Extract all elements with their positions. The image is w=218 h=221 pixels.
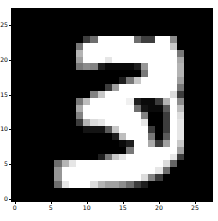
y-tick-mark bbox=[9, 25, 11, 26]
x-tick-label: 20 bbox=[155, 205, 163, 211]
image-axes bbox=[11, 8, 213, 202]
x-tick-label: 0 bbox=[13, 205, 17, 211]
y-tick-label: 0 bbox=[4, 195, 8, 201]
x-tick-label: 25 bbox=[191, 205, 199, 211]
matplotlib-figure: 0510152025 0510152025 bbox=[0, 0, 218, 221]
x-tick-label: 10 bbox=[83, 205, 91, 211]
y-tick-mark bbox=[9, 199, 11, 200]
mnist-digit-image bbox=[11, 8, 213, 202]
y-tick-label: 5 bbox=[4, 161, 8, 167]
x-tick-label: 5 bbox=[49, 205, 53, 211]
y-tick-mark bbox=[9, 60, 11, 61]
y-tick-label: 15 bbox=[0, 91, 8, 97]
y-tick-mark bbox=[9, 129, 11, 130]
x-tick-label: 15 bbox=[119, 205, 127, 211]
y-tick-label: 25 bbox=[0, 22, 8, 28]
y-tick-label: 20 bbox=[0, 57, 8, 63]
y-tick-mark bbox=[9, 95, 11, 96]
y-tick-label: 10 bbox=[0, 126, 8, 132]
y-tick-mark bbox=[9, 164, 11, 165]
